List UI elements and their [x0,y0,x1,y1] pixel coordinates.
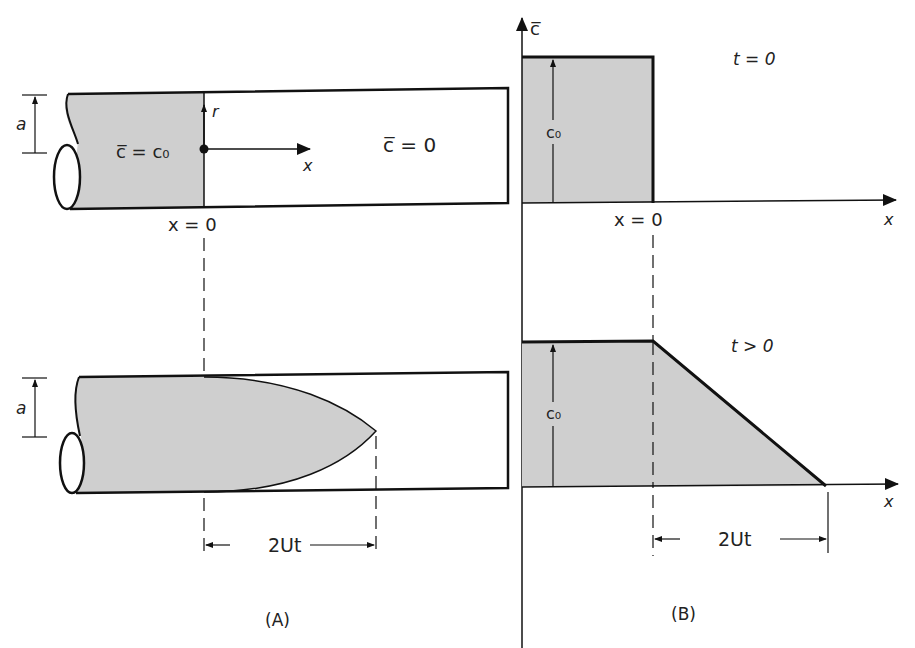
diagram-canvas: a r x c̅ = c₀ c̅ = 0 x = 0 a 2Ut c̅ t = … [0,0,915,648]
caption-a: (A) [265,610,290,630]
shaded-region-label: c̅ = c₀ [116,141,170,162]
origin-label-b: x = 0 [614,209,663,230]
radius-label: a [16,114,26,134]
step-profile-fill [522,57,653,203]
tube-end-ellipse-bottom [60,433,84,493]
panel-b-top-chart [522,18,896,648]
extent-label-b: 2Ut [718,528,751,550]
tube-end-ellipse [54,145,80,209]
c-axis-label: c̅ [530,18,541,39]
r-axis-label: r [212,102,220,121]
origin-label: x = 0 [168,214,217,235]
extent-label-a: 2Ut [268,534,301,556]
paraboloid-fluid-region [75,377,376,492]
caption-b: (B) [671,604,696,624]
panel-b-bottom-chart [522,341,898,553]
ramp-profile-fill [522,341,826,487]
x-axis-label: x [302,156,313,175]
height-label-top: c₀ [546,123,561,142]
time-label-bottom: t > 0 [731,336,774,356]
height-label-bottom: c₀ [546,404,561,423]
x-axis-label-top: x [883,210,894,229]
x-axis-label-bottom: x [883,492,894,511]
panel-a-bottom-tube [22,372,508,556]
clear-region-label: c̅ = 0 [383,133,436,157]
radius-label-bottom: a [16,398,26,418]
time-label-top: t = 0 [733,49,776,69]
